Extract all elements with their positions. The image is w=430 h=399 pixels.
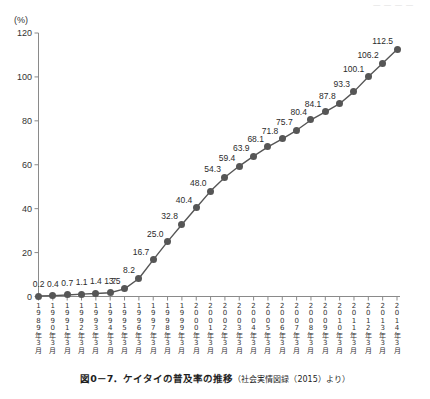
data-point-marker	[107, 289, 114, 296]
x-axis-tick-label: 2001年3月	[205, 303, 217, 356]
x-axis-tick-label: 2003年3月	[233, 303, 245, 356]
y-axis-tick-label: 60	[8, 160, 32, 170]
data-point-value-label: 106.2	[357, 50, 378, 60]
x-axis-tick-label: 1997年3月	[147, 303, 159, 356]
data-point-value-label: 32.8	[161, 211, 178, 221]
y-axis-tick-label: 40	[8, 204, 32, 214]
data-point-value-label: 0.2	[33, 279, 45, 289]
data-point-value-label: 1.1	[76, 277, 88, 287]
x-axis-tick-label: 1995年3月	[119, 303, 131, 356]
x-axis-tick-label: 2010年3月	[334, 303, 346, 356]
data-point-marker	[394, 46, 401, 53]
x-axis-tick-label: 2008年3月	[305, 303, 317, 356]
data-point-value-label: 25.0	[147, 229, 164, 239]
data-point-value-label: 75.7	[276, 117, 293, 127]
y-axis-tick-label: 120	[8, 28, 32, 38]
x-axis-tick-label: 1991年3月	[61, 303, 73, 356]
x-axis-tick-label: 1990年3月	[47, 303, 59, 356]
data-point-value-label: 54.3	[204, 164, 221, 174]
data-point-value-label: 48.0	[190, 178, 207, 188]
x-axis-tick-label: 1999年3月	[176, 303, 188, 356]
y-axis-tick-label: 0	[8, 292, 32, 302]
y-axis-tick-label: 80	[8, 116, 32, 126]
data-point-value-label: 112.5	[372, 36, 393, 46]
data-point-value-label: 40.4	[176, 195, 193, 205]
y-axis-tick-label: 100	[8, 72, 32, 82]
x-axis-tick-label: 2005年3月	[262, 303, 274, 356]
x-axis-tick-label: 2006年3月	[276, 303, 288, 356]
caption-title: 図0－7．ケイタイの普及率の推移	[80, 373, 233, 384]
x-axis-tick-label: 2013年3月	[377, 303, 389, 356]
caption-source: （社会実情図録（2015）より）	[233, 375, 349, 384]
x-axis-ticks	[39, 297, 398, 301]
data-point-marker	[35, 293, 42, 300]
data-point-value-label: 0.7	[61, 278, 73, 288]
data-point-value-label: 16.7	[133, 247, 150, 257]
figure-caption: 図0－7．ケイタイの普及率の推移（社会実情図録（2015）より）	[0, 371, 430, 385]
data-point-value-label: 100.1	[343, 64, 364, 74]
data-point-marker	[365, 73, 372, 80]
x-axis-tick-label: 1994年3月	[104, 303, 116, 356]
x-axis-tick-label: 2012年3月	[362, 303, 374, 356]
x-axis-tick-label: 2000年3月	[190, 303, 202, 356]
x-axis-tick-label: 2009年3月	[319, 303, 331, 356]
data-point-value-label: 8.2	[123, 265, 135, 275]
y-axis-ticks	[35, 33, 39, 297]
x-axis-tick-label: 1989年3月	[33, 303, 45, 356]
x-axis-tick-label: 1998年3月	[162, 303, 174, 356]
x-axis-tick-label: 2011年3月	[348, 303, 360, 356]
data-point-value-label: 59.4	[219, 153, 236, 163]
data-point-marker	[193, 204, 200, 211]
data-point-value-label: 3.5	[109, 276, 121, 286]
data-point-value-label: 63.9	[233, 143, 250, 153]
x-axis-tick-label: 1993年3月	[90, 303, 102, 356]
data-point-value-label: 71.8	[262, 126, 279, 136]
data-point-value-label: 1.4	[90, 276, 102, 286]
data-point-marker	[379, 60, 386, 67]
x-axis-tick-label: 2014年3月	[391, 303, 403, 356]
data-point-value-label: 93.3	[333, 79, 350, 89]
y-axis-tick-label: 20	[8, 248, 32, 258]
data-point-marker	[250, 153, 257, 160]
data-point-marker	[293, 127, 300, 134]
data-point-value-label: 0.4	[47, 279, 59, 289]
x-axis-tick-label: 2007年3月	[291, 303, 303, 356]
x-axis-tick-label: 2004年3月	[248, 303, 260, 356]
data-point-marker	[236, 163, 243, 170]
figure-mobile-phone-diffusion-rate: ― ― ― ― (%) 020406080100120 0.20.40.71.1…	[0, 0, 430, 399]
data-point-marker	[78, 291, 85, 298]
data-point-value-label: 87.8	[319, 91, 336, 101]
x-axis-tick-label: 1992年3月	[76, 303, 88, 356]
data-point-marker	[207, 188, 214, 195]
x-axis-tick-label: 1996年3月	[133, 303, 145, 356]
x-axis-tick-label: 2002年3月	[219, 303, 231, 356]
